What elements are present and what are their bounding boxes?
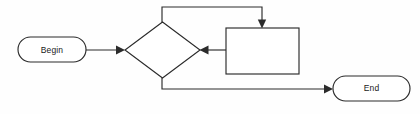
process-rectangle-shape [226, 28, 299, 74]
node-end[interactable]: End [333, 76, 410, 101]
edge-decision-to-process-loop [162, 7, 262, 23]
node-process[interactable] [226, 28, 299, 74]
node-begin[interactable]: Begin [18, 37, 86, 62]
begin-label: Begin [41, 45, 64, 55]
node-decision[interactable] [125, 22, 200, 78]
end-label: End [364, 83, 380, 93]
decision-diamond-shape [125, 22, 200, 78]
arrowhead-decision-to-process-loop [258, 20, 266, 29]
flowchart-canvas: Begin End [0, 0, 420, 114]
arrowhead-decision-to-end [324, 85, 333, 94]
flowchart-svg: Begin End [0, 0, 420, 114]
arrowhead-begin-to-decision [116, 46, 125, 55]
edge-decision-to-end [162, 78, 329, 89]
